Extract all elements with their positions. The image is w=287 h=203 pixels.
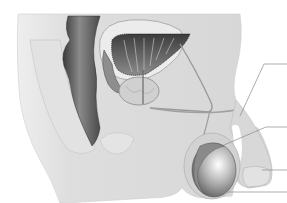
anatomy-illustration [0, 0, 287, 203]
glans [243, 166, 271, 187]
anatomy-figure [0, 0, 287, 203]
leader-line-1 [240, 64, 287, 116]
